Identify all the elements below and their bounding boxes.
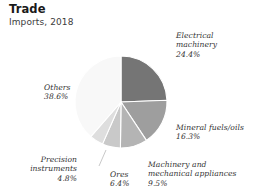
slice-label-line: Others bbox=[44, 83, 71, 92]
leader-line-group bbox=[99, 150, 106, 166]
slice-label-line: instruments bbox=[30, 164, 77, 173]
slice-label-value: 4.8% bbox=[30, 174, 77, 183]
slice-label-line: Precision bbox=[30, 155, 77, 164]
pie-chart-figure: Trade Imports, 2018 Electrical machinery… bbox=[0, 0, 255, 196]
pie-slice-group bbox=[75, 56, 167, 148]
slice-label-line: Machinery and bbox=[148, 160, 237, 169]
slice-label-mineral-fuels-oils: Mineral fuels/oils 16.3% bbox=[176, 123, 244, 142]
slice-label-ores: Ores 6.4% bbox=[110, 170, 130, 189]
slice-label-line: Ores bbox=[110, 170, 130, 179]
slice-label-value: 24.4% bbox=[176, 50, 217, 59]
slice-label-others: Others 38.6% bbox=[44, 83, 71, 102]
slice-label-line: mechanical appliances bbox=[148, 169, 237, 178]
slice-label-line: Mineral fuels/oils bbox=[176, 123, 244, 132]
slice-label-value: 9.5% bbox=[148, 179, 237, 188]
slice-label-electrical-machinery: Electrical machinery 24.4% bbox=[176, 31, 217, 59]
slice-label-precision-instruments: Precision instruments 4.8% bbox=[30, 155, 77, 183]
slice-label-value: 38.6% bbox=[44, 92, 71, 101]
slice-label-machinery-mechanical-appliances: Machinery and mechanical appliances 9.5% bbox=[148, 160, 237, 188]
slice-label-value: 16.3% bbox=[176, 132, 244, 141]
leader-line-ores bbox=[99, 150, 106, 166]
slice-label-line: Electrical bbox=[176, 31, 217, 40]
pie-slice bbox=[121, 56, 167, 102]
slice-label-line: machinery bbox=[176, 40, 217, 49]
slice-label-value: 6.4% bbox=[110, 179, 130, 188]
